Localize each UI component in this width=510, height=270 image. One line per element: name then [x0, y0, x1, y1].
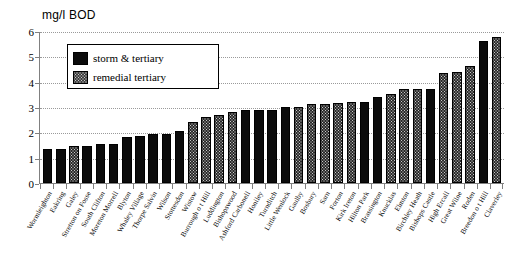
bar-slot: [345, 32, 358, 183]
y-axis-tick-label: 6: [14, 26, 34, 38]
bar-remedial: [347, 102, 357, 183]
bar-storm: [43, 149, 53, 183]
x-label-slot: Wilson: [159, 189, 172, 269]
x-label-slot: Burrough o t Hill: [199, 189, 212, 269]
bar-slot: [477, 32, 490, 183]
x-label-slot: Little Wenlock: [278, 189, 291, 269]
y-axis-tick-label: 1: [14, 153, 34, 165]
y-axis-tick-label: 0: [14, 178, 34, 190]
bar-remedial: [465, 66, 475, 183]
bar-remedial: [201, 117, 211, 183]
bar-storm: [426, 89, 436, 183]
x-label-slot: Gaulby: [291, 189, 304, 269]
y-axis-tick: [35, 32, 39, 33]
x-label-slot: Honiley: [252, 189, 265, 269]
legend-item-storm: storm & tertiary: [73, 49, 213, 67]
bar-storm: [267, 110, 277, 183]
y-axis-tick-label: 4: [14, 77, 34, 89]
bar-slot: [292, 32, 305, 183]
bar-slot: [384, 32, 397, 183]
bar-storm: [241, 110, 251, 183]
legend-swatch-remedial-icon: [73, 71, 88, 84]
bar-remedial: [69, 146, 79, 183]
bar-slot: [397, 32, 410, 183]
bar-remedial: [333, 103, 343, 183]
x-label-slot: Bishops Castle: [424, 189, 437, 269]
bar-slot: [371, 32, 384, 183]
bar-slot: [226, 32, 239, 183]
bar-slot: [411, 32, 424, 183]
bar-slot: [331, 32, 344, 183]
y-axis-tick: [35, 83, 39, 84]
y-axis-tick: [35, 108, 39, 109]
bar-slot: [437, 32, 450, 183]
x-label-slot: Thorpe Salvin: [146, 189, 159, 269]
x-label-slot: Breedon o t Hill: [477, 189, 490, 269]
bar-storm: [135, 136, 145, 183]
bar-slot: [265, 32, 278, 183]
bar-remedial: [386, 94, 396, 183]
bar-remedial: [492, 37, 502, 183]
bar-slot: [252, 32, 265, 183]
x-label-slot: Brassington: [371, 189, 384, 269]
bod-bar-chart: mg/l BOD 0123456 WormleightonEakringGale…: [0, 0, 510, 270]
bar-storm: [122, 137, 132, 183]
x-label-slot: Sarn: [318, 189, 331, 269]
bar-remedial: [294, 107, 304, 183]
bar-storm: [360, 102, 370, 183]
bar-slot: [464, 32, 477, 183]
chart-legend: storm & tertiary remedial tertiary: [67, 44, 219, 89]
chart-title: mg/l BOD: [42, 8, 96, 22]
bar-storm: [56, 149, 66, 183]
bar-storm: [254, 110, 264, 183]
bar-storm: [281, 107, 291, 183]
bar-slot: [41, 32, 54, 183]
bar-remedial: [214, 115, 224, 183]
y-axis-tick: [35, 133, 39, 134]
bar-storm: [82, 146, 92, 183]
bar-remedial: [320, 104, 330, 183]
bar-remedial: [439, 73, 449, 183]
bar-slot: [305, 32, 318, 183]
bar-remedial: [452, 72, 462, 183]
x-label-slot: Forton: [331, 189, 344, 269]
bar-slot: [239, 32, 252, 183]
bar-storm: [162, 134, 172, 183]
bar-storm: [148, 134, 158, 183]
bar-slot: [490, 32, 503, 183]
bar-storm: [96, 144, 106, 183]
bar-slot: [318, 32, 331, 183]
y-axis-tick-label: 2: [14, 127, 34, 139]
legend-label-remedial: remedial tertiary: [93, 71, 166, 83]
bar-remedial: [399, 89, 409, 183]
bar-storm: [175, 131, 185, 183]
x-axis-labels: WormleightonEakringGaleyStretton on Foss…: [39, 189, 504, 269]
y-axis-tick: [35, 57, 39, 58]
legend-label-storm: storm & tertiary: [93, 52, 164, 64]
bar-slot: [279, 32, 292, 183]
bar-slot: [358, 32, 371, 183]
x-label-slot: Hilton Park: [358, 189, 371, 269]
x-label-slot: Bosbury: [305, 189, 318, 269]
bar-remedial: [188, 122, 198, 183]
bar-storm: [109, 144, 119, 183]
bar-remedial: [307, 104, 317, 183]
x-label-slot: Wormleighton: [40, 189, 53, 269]
bar-slot: [450, 32, 463, 183]
legend-swatch-storm-icon: [73, 52, 88, 65]
bar-slot: [54, 32, 67, 183]
bar-remedial: [228, 112, 238, 183]
y-axis-tick-label: 5: [14, 51, 34, 63]
y-axis-tick-label: 3: [14, 102, 34, 114]
x-label-slot: Kirk Ireton: [344, 189, 357, 269]
bar-slot: [424, 32, 437, 183]
x-label-slot: Ashford Carbonell: [239, 189, 252, 269]
bar-storm: [479, 41, 489, 183]
x-label-slot: Claverley: [490, 189, 503, 269]
bar-remedial: [413, 89, 423, 183]
bar-storm: [373, 97, 383, 183]
x-label-slot: High Ercall: [437, 189, 450, 269]
y-axis-tick: [35, 159, 39, 160]
legend-item-remedial: remedial tertiary: [73, 68, 213, 86]
